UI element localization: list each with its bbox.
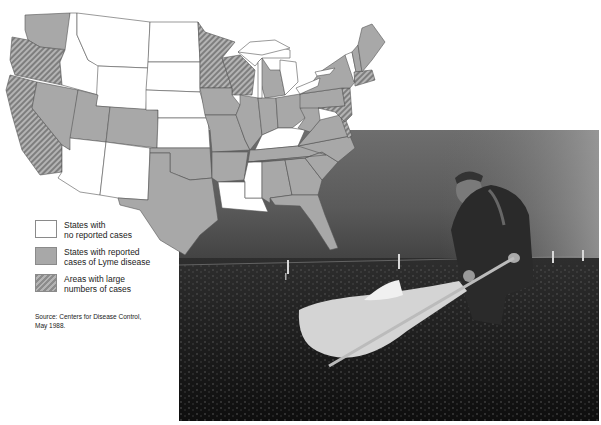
legend-item-no-cases: States with no reported cases [35, 220, 195, 240]
state-oh [276, 94, 305, 128]
state-vt [345, 52, 356, 82]
state-ut [70, 90, 110, 142]
state-wa [25, 13, 70, 50]
state-id [60, 13, 100, 95]
state-nd [148, 22, 200, 62]
source-line1: Source: Centers for Disease Control, [35, 313, 195, 322]
lake-michigan [258, 58, 262, 98]
state-mi [258, 58, 285, 98]
state-wi [222, 55, 255, 95]
legend-label-line2: cases of Lyme disease [64, 257, 150, 267]
legend-item-reported: States with reported cases of Lyme disea… [35, 247, 195, 267]
legend-swatch-white [35, 220, 57, 238]
legend-label-line1: States with reported [64, 247, 150, 257]
source-note: Source: Centers for Disease Control, May… [35, 313, 195, 330]
state-nm [100, 142, 150, 200]
legend-label-line1: Areas with large [64, 274, 131, 284]
legend-label-line2: no reported cases [64, 230, 132, 240]
lake-erie [296, 78, 320, 94]
state-ca [6, 75, 62, 175]
state-me [358, 24, 385, 72]
state-nh [352, 45, 362, 72]
legend-swatch-hatched [35, 274, 57, 292]
source-line2: May 1988. [35, 322, 195, 331]
legend-swatch-gray [35, 247, 57, 265]
state-md-de-nj [318, 88, 352, 122]
lake-huron [280, 60, 298, 95]
state-ne [146, 90, 208, 118]
map-legend: States with no reported cases States wit… [35, 220, 195, 301]
lake-superior [238, 40, 290, 55]
state-or [10, 37, 65, 85]
state-ny [300, 55, 355, 94]
state-pa [300, 88, 345, 108]
legend-item-large: Areas with large numbers of cases [35, 274, 195, 294]
field-photo [179, 130, 599, 421]
state-az [58, 138, 106, 195]
state-nv [32, 82, 78, 150]
state-mt [77, 13, 150, 68]
state-ma-ct-ri [354, 70, 375, 86]
state-co [106, 107, 158, 148]
lake-ontario [315, 68, 335, 76]
state-wv [298, 105, 320, 132]
state-sd [146, 62, 200, 92]
state-mi-up [238, 42, 290, 66]
legend-label-line1: States with [64, 220, 132, 230]
legend-label-line2: numbers of cases [64, 284, 131, 294]
state-mn [198, 22, 235, 88]
state-wy [96, 66, 148, 110]
state-ia [200, 88, 240, 115]
